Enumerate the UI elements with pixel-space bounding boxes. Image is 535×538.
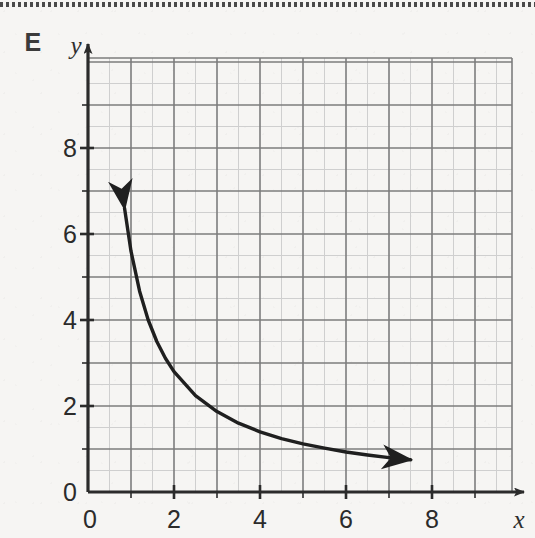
x-tick-label-8: 8 [425, 505, 439, 533]
y-tick-label-0: 0 [63, 478, 77, 506]
figure-panel: E [0, 0, 535, 538]
coordinate-plot: 0 2 4 6 8 0 2 4 6 8 y x [0, 0, 535, 538]
y-axis-label: y [67, 32, 82, 59]
x-tick-label-0: 0 [83, 505, 97, 533]
y-tick-label-6: 6 [63, 220, 77, 248]
x-tick-label-6: 6 [339, 505, 353, 533]
y-tick-label-4: 4 [63, 306, 77, 334]
y-tick-label-2: 2 [63, 392, 77, 420]
x-tick-label-4: 4 [253, 505, 267, 533]
grid-minor-lines [88, 58, 512, 492]
x-tick-label-2: 2 [167, 505, 181, 533]
x-axis-label: x [512, 506, 524, 533]
y-tick-label-8: 8 [63, 134, 77, 162]
grid-major-lines [88, 58, 512, 492]
